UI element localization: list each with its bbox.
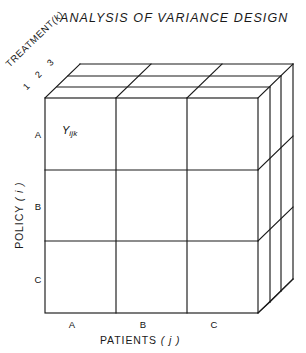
cube-top-depth-lines (57, 76, 281, 87)
cube-top-column-diagonals (116, 64, 222, 98)
cube-right-depth-lines (270, 76, 281, 302)
y-axis-title-symbol: ( i ) (13, 182, 25, 202)
cube-right-row-diagonals (258, 136, 293, 241)
y-tick-0: A (31, 129, 45, 140)
y-axis-title: POLICY ( i ) (14, 182, 25, 249)
x-tick-1: B (128, 319, 158, 330)
x-tick-0: A (57, 319, 87, 330)
cube-right-bottom-diagonals (258, 279, 293, 313)
y-axis-title-text: POLICY (13, 205, 25, 249)
x-axis-title-symbol: ( j ) (161, 334, 181, 346)
anova-cube-diagram (0, 0, 306, 353)
x-axis-title-text: PATIENTS (100, 334, 157, 346)
x-axis-title: PATIENTS ( j ) (100, 335, 180, 346)
cell-annotation-subscript: ijk (69, 129, 77, 138)
y-tick-2: C (31, 274, 45, 285)
page-title: ANALYSIS OF VARIANCE DESIGN (60, 12, 300, 25)
cell-annotation: Yijk (62, 124, 78, 138)
cube-slice-3 (45, 64, 293, 313)
x-tick-2: C (199, 319, 229, 330)
y-tick-1: B (31, 201, 45, 212)
